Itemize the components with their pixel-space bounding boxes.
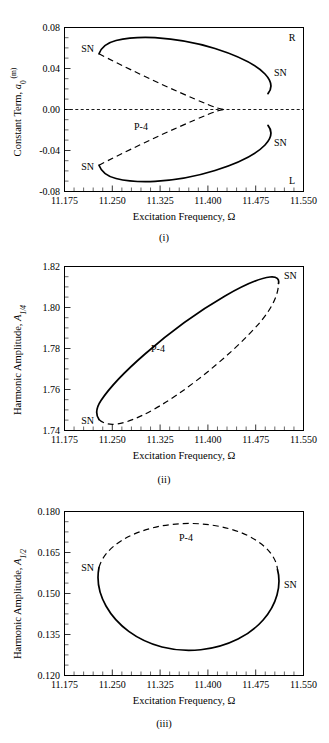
plot-iii-y-axis-title: Harmonic Amplitude, A1/2	[12, 549, 28, 659]
svg-text:Harmonic Amplitude, A1/2: Harmonic Amplitude, A1/2	[12, 549, 28, 659]
plot-i-ytick-3: -0.04	[39, 145, 60, 156]
plot-iii-caption: (iii)	[156, 718, 172, 730]
plot-i-svg: Constant Term, a0 (m)	[0, 0, 329, 248]
plot-i-x-ticks: 11.175 11.250 11.325 11.400 11.475 11.55…	[51, 186, 317, 207]
plot-iii-ytick-2: 0.150	[38, 588, 61, 599]
svg-text:Constant Term, a0 (m): Constant Term, a0 (m)	[9, 67, 28, 156]
plot-ii-svg: Harmonic Amplitude, A1/4	[0, 248, 329, 496]
plot-iii-x-ticks: 11.175 11.250 11.325 11.400 11.475 11.55…	[51, 670, 317, 691]
plot-i-xtick-3: 11.400	[194, 195, 221, 206]
plot-iii-xtick-1: 11.250	[99, 679, 126, 690]
plot-iii-annot-branch-p4: P-4	[179, 532, 193, 543]
plot-iii-ytick-0: 0.180	[38, 506, 61, 517]
plot-ii-curve-unstable	[99, 284, 279, 425]
plot-i-y-axis-title: Constant Term, a0 (m)	[9, 67, 28, 156]
plot-iii-xtick-0: 11.175	[51, 679, 78, 690]
plot-iii-ytick-1: 0.165	[38, 547, 61, 558]
plot-i-x-axis-title: Excitation Frequency, Ω	[133, 211, 236, 222]
plot-iii-svg: Harmonic Amplitude, A1/2	[0, 496, 329, 743]
plot-ii-annot-sn-upper-right: SN	[284, 270, 297, 281]
figure-bifurcation-diagrams: Constant Term, a0 (m)	[0, 0, 329, 743]
plot-i-annot-branch-p4: P-4	[134, 121, 148, 132]
plot-ii-xtick-1: 11.250	[99, 434, 126, 445]
plot-i-xtick-5: 11.550	[290, 195, 317, 206]
plot-i-ytick-1: 0.04	[43, 63, 61, 74]
plot-ii-annot-sn-lower-left: SN	[81, 415, 94, 426]
plot-i-curve-upper-unstable	[99, 54, 225, 110]
panel-i: Constant Term, a0 (m)	[0, 0, 329, 248]
plot-ii-xtick-4: 11.475	[242, 434, 269, 445]
plot-i-annot-sn-lower-left: SN	[81, 161, 94, 172]
plot-iii-xtick-5: 11.550	[290, 679, 317, 690]
plot-iii-xtick-3: 11.400	[194, 679, 221, 690]
plot-iii-xtick-4: 11.475	[242, 679, 269, 690]
plot-ii-caption: (ii)	[158, 474, 171, 486]
plot-iii-x-axis-title: Excitation Frequency, Ω	[133, 695, 236, 706]
plot-i-curve-lower-stable	[99, 125, 271, 181]
plot-ii-y-axis-title: Harmonic Amplitude, A1/4	[12, 305, 28, 415]
plot-ii-ytick-2: 1.78	[43, 343, 61, 354]
plot-iii-y-ticks: 0.180 0.165 0.150 0.135 0.120	[38, 506, 71, 681]
plot-i-xtick-2: 11.325	[147, 195, 174, 206]
plot-ii-annot-branch-p4: P-4	[151, 343, 165, 354]
plot-ii-xtick-5: 11.550	[290, 434, 317, 445]
plot-ii-ytick-3: 1.76	[43, 384, 61, 395]
panel-iii: Harmonic Amplitude, A1/2	[0, 496, 329, 743]
plot-ii-frame	[65, 267, 304, 431]
plot-ii-xtick-0: 11.175	[51, 434, 78, 445]
plot-i-ytick-2: 0.00	[43, 104, 61, 115]
plot-ii-x-ticks: 11.175 11.250 11.325 11.400 11.475 11.55…	[51, 425, 317, 446]
plot-i-annot-sn-upper-left: SN	[81, 43, 94, 54]
plot-i-annot-branch-r: R	[289, 32, 296, 43]
plot-i-ytick-0: 0.08	[43, 22, 61, 33]
plot-i-xtick-1: 11.250	[99, 195, 126, 206]
plot-i-annot-branch-l: L	[289, 175, 295, 186]
svg-text:Harmonic Amplitude, A1/4: Harmonic Amplitude, A1/4	[12, 305, 28, 415]
plot-iii-curve-unstable-top	[99, 523, 278, 569]
plot-iii-annot-sn-left: SN	[81, 562, 94, 573]
plot-i-curve-lower-unstable	[99, 110, 225, 166]
plot-iii-annot-sn-right: SN	[284, 579, 297, 590]
plot-i-annot-sn-lower-right: SN	[274, 137, 287, 148]
plot-ii-ytick-1: 1.80	[43, 302, 61, 313]
plot-i-curve-upper-stable	[99, 37, 271, 93]
plot-ii-y-ticks: 1.82 1.80 1.78 1.76 1.74	[43, 261, 71, 436]
plot-ii-curve-stable	[97, 277, 279, 420]
plot-i-annot-sn-upper-right: SN	[274, 67, 287, 78]
plot-iii-ytick-3: 0.135	[38, 629, 61, 640]
plot-i-xtick-0: 11.175	[51, 195, 78, 206]
plot-ii-ytick-0: 1.82	[43, 261, 61, 272]
plot-ii-xtick-3: 11.400	[194, 434, 221, 445]
plot-i-caption: (i)	[159, 232, 169, 244]
panel-ii: Harmonic Amplitude, A1/4	[0, 248, 329, 496]
plot-iii-xtick-2: 11.325	[147, 679, 174, 690]
plot-ii-xtick-2: 11.325	[147, 434, 174, 445]
plot-i-xtick-4: 11.475	[242, 195, 269, 206]
plot-iii-curve-stable-bottom	[98, 568, 279, 651]
plot-ii-x-axis-title: Excitation Frequency, Ω	[133, 450, 236, 461]
